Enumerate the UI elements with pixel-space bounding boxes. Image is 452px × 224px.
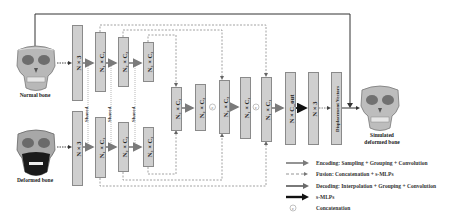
simulated-deformed-bone-skull-image: [358, 84, 402, 132]
legend-item-smlps: s-MLPs: [284, 192, 334, 202]
legend-item-decoding: Decoding: Interpolation + Grouping + Con…: [284, 181, 436, 191]
fusion-n2c2-box: N₂ × C₂: [219, 80, 230, 134]
svg-text:c: c: [212, 105, 214, 110]
bottom-encoder-n3c3-box: N₃ × C₃: [143, 127, 154, 167]
n-3-output-box: N × 3: [308, 72, 319, 145]
deformed-bone-skull-image: [14, 128, 58, 178]
svg-text:c: c: [292, 206, 294, 211]
bottom-encoder-n1c1-box: N₁ × C₁: [95, 117, 106, 178]
bottom-encoder-n2c2-box: N₂ × C₂: [118, 122, 129, 172]
simulated-label-line1: Simulated: [352, 132, 412, 139]
smlp-black-arrow-icon: [284, 192, 310, 202]
deformed-bone-label: Deformed bone: [2, 177, 68, 183]
top-encoder-n2c2-box: N₂ × C₂: [118, 37, 129, 87]
concatenation-circle-icon: c: [284, 203, 310, 213]
n-cout-box: N × C_out: [285, 72, 296, 145]
simulated-deformed-bone-label: Simulated deformed bone: [352, 132, 412, 146]
top-encoder-n3c3-box: N₃ × C₃: [143, 42, 154, 82]
shared-label-2: Shared: [107, 107, 112, 122]
bottom-encoder-n3-box: N × 3: [72, 111, 83, 186]
normal-bone-skull-image: [14, 44, 58, 92]
network-diagram: c c Normal bone Deformed bone Simulated …: [0, 0, 452, 224]
fusion-dashed-arrow-icon: [284, 169, 310, 179]
legend-item-concatenation: c Concatenation: [284, 203, 350, 213]
legend-item-encoding: Encoding: Sampling + Grouping + Convolut…: [284, 158, 427, 168]
encoding-arrow-icon: [284, 158, 310, 168]
fusion-n1c1-box: N₁ × C₁: [261, 77, 272, 142]
shared-label-1: Shared: [84, 107, 89, 122]
decoder-n1c1-box: N₁ × C₁: [240, 77, 251, 139]
legend-item-fusion: Fusion: Concatenation + s-MLPs: [284, 169, 394, 179]
shared-label-3: Shared: [131, 107, 136, 122]
simulated-label-line2: deformed bone: [352, 139, 412, 146]
fusion-n3c3-box: N₃ × C₃: [171, 87, 182, 131]
top-encoder-n3-box: N × 3: [72, 25, 83, 101]
top-encoder-n1c1-box: N₁ × C₁: [95, 32, 106, 92]
displacement-vectors-box: Displacement Vectors: [331, 72, 342, 145]
normal-bone-label: Normal bone: [5, 92, 65, 98]
svg-text:c: c: [255, 105, 257, 110]
decoding-arrow-icon: [284, 181, 310, 191]
decoder-n2c2-box: N₂ × C₂: [195, 84, 206, 131]
